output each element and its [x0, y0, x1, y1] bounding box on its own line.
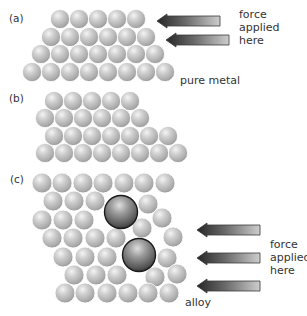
panel-c-label: (c)	[10, 173, 24, 185]
panel-a-metal-atom	[31, 44, 50, 63]
panel-b-metal-atom	[92, 108, 111, 127]
panel-c-force-arrow-icon	[197, 279, 260, 293]
panel-a-metal-atom	[136, 27, 155, 46]
panel-b-metal-atom	[130, 143, 149, 162]
panel-c-metal-atom	[63, 228, 83, 248]
panel-b-metal-atom	[111, 108, 130, 127]
panel-b-metal-atom	[101, 126, 120, 145]
panel-c-metal-atom	[152, 208, 172, 228]
panel-c-metal-atom	[53, 210, 73, 230]
panel-a-metal-atom	[155, 62, 174, 81]
panel-b-metal-atom	[35, 143, 54, 162]
solute-atom	[105, 196, 138, 229]
panel-a-metal-atom	[145, 44, 164, 63]
panel-b-metal-atom	[54, 108, 73, 127]
panel-a-metal-atom	[117, 62, 136, 81]
panel-a-caption: pure metal	[180, 74, 240, 87]
panel-a-metal-atom	[79, 27, 98, 46]
panel-a-metal-atom	[117, 27, 136, 46]
panel-a-label: (a)	[9, 12, 24, 24]
panel-b-metal-atom	[149, 143, 168, 162]
panel-a-metal-atom	[88, 44, 107, 63]
panel-b-metal-atom	[130, 108, 149, 127]
panel-b-metal-atom	[120, 126, 139, 145]
panel-c-metal-atom	[64, 265, 84, 285]
panel-b-metal-atom	[168, 143, 187, 162]
panel-c-metal-atom	[85, 191, 105, 211]
panel-c-metal-atom	[85, 228, 105, 248]
panel-c-metal-atom	[43, 191, 63, 211]
panel-a-force-arrow-icon	[157, 14, 220, 28]
panel-c-metal-atom	[93, 173, 113, 193]
panel-a-metal-atom	[60, 62, 79, 81]
panel-a-metal-atom	[41, 62, 60, 81]
panel-a-metal-atom	[60, 27, 79, 46]
panel-a-force-arrow-icon	[166, 33, 229, 47]
panel-c-metal-atom	[53, 247, 73, 267]
panel-b-metal-atom	[101, 91, 120, 110]
panel-a-metal-atom	[41, 27, 60, 46]
panel-b-metal-atom	[120, 91, 139, 110]
panel-c-metal-atom	[32, 173, 52, 193]
panel-a-metal-atom	[69, 9, 88, 28]
panel-c-metal-atom	[64, 191, 84, 211]
panel-c-metal-atom	[32, 210, 52, 230]
panel-b-metal-atom	[92, 143, 111, 162]
panel-b-metal-atom	[63, 126, 82, 145]
panel-b-metal-atom	[158, 126, 177, 145]
panel-c-caption: alloy	[185, 296, 211, 309]
panel-a-metal-atom	[98, 27, 117, 46]
panel-c-metal-atom	[118, 283, 138, 303]
panel-b-metal-atom	[73, 108, 92, 127]
panel-a-metal-atom	[50, 44, 69, 63]
panel-b-metal-atom	[54, 143, 73, 162]
panel-b-metal-atom	[82, 126, 101, 145]
panel-a-metal-atom	[88, 9, 107, 28]
panel-a-metal-atom	[98, 62, 117, 81]
panel-c-metal-atom	[73, 173, 93, 193]
panel-b-metal-atom	[44, 91, 63, 110]
panel-c-force-text: force applied here	[270, 238, 307, 277]
panel-c-metal-atom	[167, 264, 187, 284]
panel-c-metal-atom	[114, 173, 134, 193]
panel-c-metal-atom	[75, 283, 95, 303]
panel-c-metal-atom	[86, 265, 106, 285]
panel-a-metal-atom	[126, 9, 145, 28]
panel-c-metal-atom	[97, 283, 117, 303]
panel-c-metal-atom	[106, 228, 126, 248]
panel-c-metal-atom	[52, 173, 72, 193]
panel-a-force-text: force applied here	[239, 8, 280, 47]
panel-a-metal-atom	[50, 9, 69, 28]
panel-c-metal-atom	[55, 283, 75, 303]
panel-c-metal-atom	[155, 173, 175, 193]
panel-b-metal-atom	[139, 126, 158, 145]
panel-c-metal-atom	[138, 283, 158, 303]
panel-b-metal-atom	[35, 108, 54, 127]
panel-c-metal-atom	[97, 247, 117, 267]
panel-c-metal-atom	[42, 228, 62, 248]
panel-b-metal-atom	[111, 143, 130, 162]
panel-a-metal-atom	[107, 9, 126, 28]
panel-a-metal-atom	[22, 62, 41, 81]
metal-alloy-diagram: (a) force applied here pure metal (b) (c…	[0, 0, 307, 316]
panel-a-metal-atom	[136, 62, 155, 81]
panel-c-metal-atom	[134, 173, 154, 193]
panel-a-metal-atom	[79, 62, 98, 81]
panel-a-metal-atom	[107, 44, 126, 63]
panel-a-metal-atom	[126, 44, 145, 63]
panel-b-metal-atom	[63, 91, 82, 110]
atoms-layer	[22, 9, 187, 303]
panel-c-metal-atom	[74, 210, 94, 230]
panel-b-metal-atom	[73, 143, 92, 162]
panel-c-metal-atom	[159, 283, 179, 303]
diagram-canvas	[0, 0, 307, 316]
panel-b-metal-atom	[82, 91, 101, 110]
panel-a-metal-atom	[69, 44, 88, 63]
panel-b-label: (b)	[9, 92, 24, 104]
panel-b-metal-atom	[44, 126, 63, 145]
solute-atom	[123, 239, 156, 272]
panel-c-force-arrow-icon	[197, 223, 260, 237]
panel-c-metal-atom	[107, 265, 127, 285]
panel-c-metal-atom	[163, 227, 183, 247]
panel-c-force-arrow-icon	[197, 251, 260, 265]
